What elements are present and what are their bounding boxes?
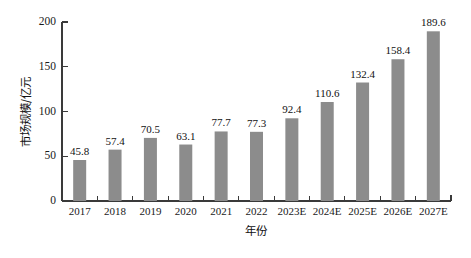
x-tick-label: 2018: [104, 205, 127, 217]
bar: [285, 118, 298, 201]
bar-value-label: 132.4: [350, 68, 375, 80]
bar: [179, 145, 192, 201]
bar: [144, 138, 157, 201]
bar-value-label: 77.7: [212, 116, 232, 128]
y-tick-label: 0: [50, 194, 56, 206]
bar: [321, 102, 334, 201]
x-tick-label: 2021: [210, 205, 232, 217]
x-tick-label: 2024E: [313, 205, 342, 217]
x-axis-tick-labels: 2017201820192020202120222023E2024E2025E2…: [69, 205, 448, 217]
bar-value-label: 189.6: [421, 16, 446, 28]
bar: [356, 83, 369, 201]
x-tick-label: 2027E: [419, 205, 448, 217]
bar: [215, 131, 228, 201]
y-axis-title: 市场规模/亿元: [19, 76, 33, 147]
bar-value-label: 92.4: [282, 103, 302, 115]
x-tick-label: 2025E: [348, 205, 377, 217]
x-tick-label: 2022: [246, 205, 268, 217]
y-tick-label: 150: [39, 60, 57, 72]
x-tick-label: 2023E: [277, 205, 306, 217]
bar: [391, 59, 404, 201]
bar: [250, 132, 263, 201]
bar-value-label: 70.5: [141, 123, 161, 135]
bar-value-label: 63.1: [176, 130, 195, 142]
chart-canvas: 050100150200 45.857.470.563.177.777.392.…: [0, 0, 471, 258]
x-tick-label: 2026E: [384, 205, 413, 217]
bar-value-label: 158.4: [386, 44, 411, 56]
y-tick-label: 200: [39, 15, 57, 27]
bar-value-label: 45.8: [70, 145, 90, 157]
bar: [73, 160, 86, 201]
y-tick-label: 50: [45, 149, 57, 161]
x-tick-label: 2017: [69, 205, 92, 217]
x-tick-label: 2020: [175, 205, 198, 217]
bar: [109, 150, 122, 201]
bar-value-label: 57.4: [105, 135, 125, 147]
bar-chart-figure: 050100150200 45.857.470.563.177.777.392.…: [0, 0, 471, 258]
bar-value-label: 77.3: [247, 117, 267, 129]
bar-value-label: 110.6: [315, 87, 340, 99]
x-tick-label: 2019: [139, 205, 162, 217]
y-tick-label: 100: [39, 105, 57, 117]
x-axis-title: 年份: [245, 224, 268, 238]
bar: [427, 31, 440, 201]
